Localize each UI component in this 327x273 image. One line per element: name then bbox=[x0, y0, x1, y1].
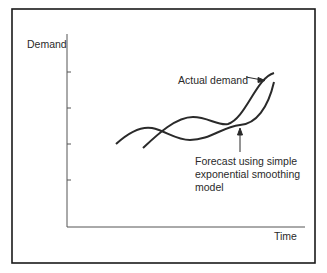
actual-demand-arrow bbox=[246, 77, 265, 83]
forecast-annotation-line3: model bbox=[195, 181, 224, 193]
x-axis-label: Time bbox=[274, 230, 297, 242]
forecast-annotation-line2: exponential smoothing bbox=[195, 168, 300, 180]
y-axis-label: Demand bbox=[27, 38, 67, 50]
actual-demand-annotation: Actual demand bbox=[178, 74, 248, 86]
forecast-annotation-line1: Forecast using simple bbox=[195, 155, 297, 167]
forecast-arrow bbox=[238, 128, 243, 152]
y-axis-ticks bbox=[67, 72, 71, 180]
forecast-curve bbox=[116, 82, 274, 144]
